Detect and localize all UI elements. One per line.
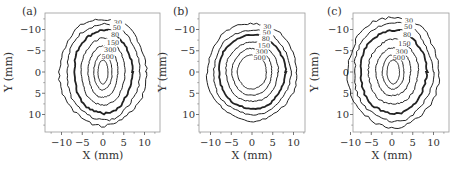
plot-area: −10−50510−10−50510305080150300500 (328, 13, 449, 148)
x-tick-label: −10 (51, 137, 72, 148)
x-tick-label: 0 (249, 137, 255, 148)
y-tick-label: −5 (26, 45, 41, 56)
x-tick-label: −5 (364, 137, 379, 148)
y-axis-label: Y (mm) (2, 52, 15, 93)
x-axis-label: X (mm) (83, 149, 124, 162)
y-tick-label: 5 (35, 88, 41, 99)
x-tick-label: 0 (389, 137, 395, 148)
y-axis-label: Y (mm) (156, 52, 169, 93)
y-tick-label: −10 (174, 24, 195, 35)
x-tick-label: −5 (75, 137, 90, 148)
x-tick-label: 10 (427, 137, 440, 148)
x-tick-label: 5 (270, 137, 276, 148)
contour-line-50 (354, 22, 434, 122)
panel-b: (b) Y (mm) X (mm) −10−50510−10−505103050… (156, 5, 305, 162)
plot-area: −10−50510−10−50510305080150300500 (174, 13, 305, 148)
contour-line-800 (98, 60, 108, 84)
contour-label: 80 (111, 31, 119, 39)
contour-line-800 (387, 60, 400, 84)
y-tick-label: 10 (336, 109, 349, 120)
x-tick-label: 5 (121, 137, 127, 148)
x-tick-label: 10 (138, 137, 151, 148)
panel-label: (a) (22, 5, 37, 18)
y-tick-label: 5 (189, 88, 195, 99)
y-tick-label: −10 (20, 24, 41, 35)
x-tick-label: 5 (410, 137, 416, 148)
contour-line-80 (74, 30, 133, 115)
panel-a: (a) Y (mm) X (mm) −10−50510−10−505103050… (2, 5, 160, 162)
plot-area: −10−50510−10−50510305080150300500 (20, 13, 160, 148)
y-tick-label: 10 (28, 109, 41, 120)
y-tick-label: 0 (35, 67, 41, 78)
contour-label: 500 (253, 54, 265, 62)
y-tick-label: −5 (334, 45, 349, 56)
contour-line-80 (219, 35, 286, 109)
y-tick-label: −5 (180, 45, 195, 56)
y-tick-label: 5 (343, 88, 349, 99)
contour-label: 80 (403, 31, 411, 39)
x-tick-label: −5 (224, 137, 239, 148)
contour-label: 150 (398, 40, 410, 48)
x-axis-label: X (mm) (232, 149, 273, 162)
y-axis-label: Y (mm) (308, 52, 321, 93)
panel-label: (b) (173, 5, 189, 18)
y-tick-label: 10 (182, 109, 195, 120)
contour-line-50 (214, 30, 292, 115)
contour-line-150 (226, 42, 279, 102)
y-tick-label: −10 (328, 24, 349, 35)
contour-line-30 (59, 19, 148, 127)
panel-label: (c) (327, 5, 342, 18)
contour-figure: (a) Y (mm) X (mm) −10−50510−10−505103050… (0, 0, 470, 173)
x-tick-label: −10 (340, 137, 361, 148)
x-tick-label: 0 (100, 137, 106, 148)
y-tick-label: 0 (189, 67, 195, 78)
x-tick-label: −10 (200, 137, 221, 148)
x-axis-label: X (mm) (372, 149, 413, 162)
x-tick-label: 10 (287, 137, 300, 148)
panel-c: (c) Y (mm) X (mm) −10−50510−10−505103050… (308, 5, 449, 162)
